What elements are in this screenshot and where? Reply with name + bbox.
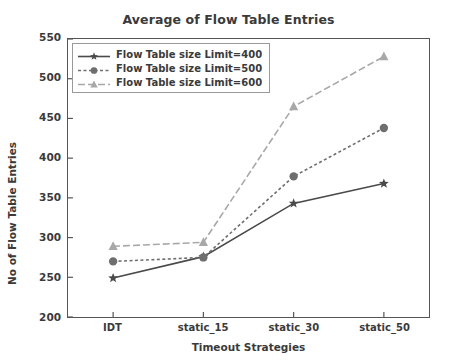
chart-title: Average of Flow Table Entries bbox=[0, 12, 457, 27]
data-point-marker bbox=[379, 178, 389, 187]
series-line bbox=[113, 128, 384, 261]
data-point-marker bbox=[289, 172, 297, 180]
x-axis-label: Timeout Strategies bbox=[67, 341, 430, 353]
y-tick-label: 550 bbox=[27, 31, 61, 43]
data-point-marker bbox=[91, 67, 98, 74]
legend-sample-icon bbox=[77, 62, 111, 75]
y-tick-label: 450 bbox=[27, 111, 61, 123]
data-point-marker bbox=[199, 253, 207, 261]
chart-figure: Average of Flow Table Entries 2002503003… bbox=[0, 0, 457, 363]
chart-legend: Flow Table size Limit=400Flow Table size… bbox=[72, 43, 270, 93]
legend-sample-icon bbox=[77, 48, 111, 61]
legend-label: Flow Table size Limit=500 bbox=[116, 63, 262, 74]
legend-item[interactable]: Flow Table size Limit=500 bbox=[77, 61, 262, 75]
data-point-marker bbox=[379, 52, 388, 61]
data-point-marker bbox=[380, 124, 388, 132]
legend-sample-icon bbox=[77, 76, 111, 89]
y-tick-label: 350 bbox=[27, 191, 61, 203]
y-tick-label: 500 bbox=[27, 71, 61, 83]
data-point-marker bbox=[289, 102, 298, 111]
y-tick-label: 300 bbox=[27, 231, 61, 243]
x-tick-label: IDT bbox=[103, 322, 122, 333]
legend-label: Flow Table size Limit=400 bbox=[116, 49, 262, 60]
data-point-marker bbox=[109, 257, 117, 265]
y-axis-tick-labels: 200250300350400450500550 bbox=[27, 0, 61, 363]
legend-label: Flow Table size Limit=600 bbox=[116, 77, 262, 88]
x-tick-label: static_30 bbox=[269, 322, 320, 333]
data-point-marker bbox=[90, 52, 98, 60]
legend-item[interactable]: Flow Table size Limit=400 bbox=[77, 47, 262, 61]
data-point-marker bbox=[108, 273, 118, 282]
y-tick-label: 200 bbox=[27, 311, 61, 323]
legend-item[interactable]: Flow Table size Limit=600 bbox=[77, 75, 262, 89]
series-line bbox=[113, 184, 384, 279]
y-tick-label: 250 bbox=[27, 271, 61, 283]
x-tick-label: static_15 bbox=[178, 322, 229, 333]
y-axis-label: No of Flow Table Entries bbox=[6, 142, 18, 285]
y-tick-label: 400 bbox=[27, 151, 61, 163]
x-tick-label: static_50 bbox=[359, 322, 410, 333]
